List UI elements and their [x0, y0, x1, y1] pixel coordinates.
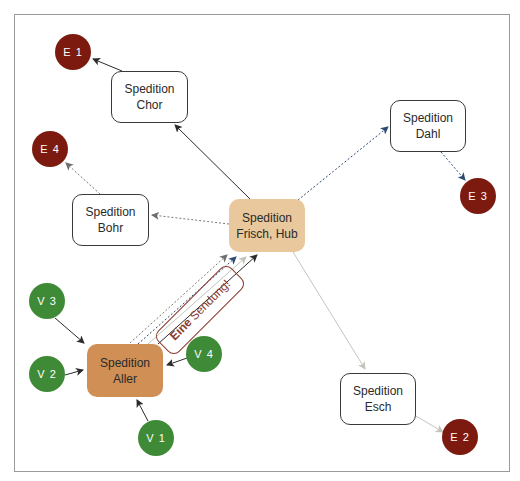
- node-spedition-frisch-hub[interactable]: Spedition Frisch, Hub: [229, 199, 305, 252]
- node-spedition-esch[interactable]: Spedition Esch: [340, 373, 416, 425]
- node-e4-label: E 4: [40, 143, 60, 155]
- node-label-line2: Dahl: [416, 126, 441, 142]
- edge-hub-dahl: [298, 127, 388, 200]
- node-e4[interactable]: E 4: [32, 131, 68, 167]
- node-e1-label: E 1: [63, 46, 83, 58]
- node-label-line1: Spedition: [403, 110, 453, 126]
- node-e2[interactable]: E 2: [442, 419, 478, 455]
- node-e2-label: E 2: [450, 431, 470, 443]
- node-v4[interactable]: V 4: [186, 336, 222, 372]
- node-e3[interactable]: E 3: [460, 178, 496, 214]
- node-v4-label: V 4: [194, 348, 214, 360]
- node-label-line1: Spedition: [242, 210, 292, 226]
- node-v2[interactable]: V 2: [29, 356, 65, 392]
- node-e3-label: E 3: [468, 190, 488, 202]
- node-label-line1: Spedition: [100, 355, 150, 371]
- node-e1[interactable]: E 1: [55, 34, 91, 70]
- edge-chor-e1: [93, 59, 122, 71]
- node-v1[interactable]: V 1: [138, 420, 174, 456]
- edge-v2-aller: [65, 370, 83, 375]
- edge-dahl-e3: [441, 152, 465, 180]
- node-label-line1: Spedition: [124, 81, 174, 97]
- node-label-line2: Aller: [113, 371, 137, 387]
- node-label-line2: Bohr: [98, 220, 123, 236]
- node-label-line2: Esch: [365, 399, 392, 415]
- node-spedition-chor[interactable]: Spedition Chor: [111, 71, 188, 123]
- node-label-line2: Frisch, Hub: [236, 226, 297, 242]
- node-v1-label: V 1: [146, 432, 166, 444]
- edge-hub-chor: [175, 125, 250, 199]
- node-label-line1: Spedition: [353, 383, 403, 399]
- node-spedition-aller[interactable]: Spedition Aller: [87, 344, 163, 397]
- edge-v1-aller: [137, 400, 148, 421]
- node-v3[interactable]: V 3: [29, 283, 65, 319]
- node-label-line1: Spedition: [85, 204, 135, 220]
- edge-esch-e2: [416, 416, 443, 432]
- edge-hub-bohr: [152, 215, 229, 224]
- edge-hub-esch: [293, 252, 365, 369]
- edge-bohr-e4: [66, 163, 100, 194]
- node-spedition-bohr[interactable]: Spedition Bohr: [72, 194, 149, 246]
- annotation-bold: Eine: [167, 315, 195, 343]
- node-spedition-dahl[interactable]: Spedition Dahl: [390, 100, 466, 152]
- node-v3-label: V 3: [37, 295, 57, 307]
- node-label-line2: Chor: [136, 97, 162, 113]
- edge-v3-aller: [55, 318, 84, 343]
- node-v2-label: V 2: [37, 368, 57, 380]
